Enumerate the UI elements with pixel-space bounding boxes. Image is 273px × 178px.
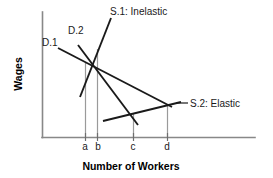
demand-curve-d1 (58, 48, 172, 107)
supply-curve-s2-elastic (103, 102, 181, 121)
x-tick-label-a: a (82, 141, 88, 152)
economics-diagram-figure: D.1 D.2 S.1: Inelastic S.2: Elastic a b … (0, 0, 273, 178)
plot-canvas: D.1 D.2 S.1: Inelastic S.2: Elastic a b … (0, 0, 273, 178)
drop-lines-group (86, 49, 168, 137)
x-tick-label-b: b (95, 141, 101, 152)
y-axis-title: Wages (12, 57, 24, 91)
x-tick-label-d: d (164, 141, 170, 152)
label-s1-inelastic: S.1: Inelastic (110, 6, 167, 17)
supply-curve-s1-inelastic (80, 18, 111, 97)
x-tick-label-c: c (131, 141, 136, 152)
label-d1: D.1 (42, 37, 58, 48)
label-s2-elastic: S.2: Elastic (190, 98, 240, 109)
label-d2: D.2 (68, 25, 84, 36)
x-axis-title: Number of Workers (82, 160, 179, 172)
